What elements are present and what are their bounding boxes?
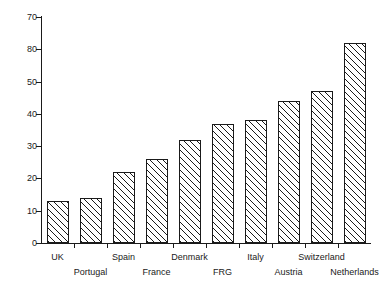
x-axis-category-label: Spain: [112, 253, 135, 262]
x-axis-tick-mark: [206, 244, 207, 248]
y-axis-tick-label: 70: [27, 13, 37, 22]
y-axis-tick-label: 30: [27, 142, 37, 151]
x-axis-category-label: FRG: [213, 268, 232, 277]
x-axis-tick-mark: [74, 244, 75, 248]
x-axis-category-label: Austria: [274, 268, 302, 277]
x-axis-tick-mark: [140, 244, 141, 248]
x-axis-tick-mark: [272, 244, 273, 248]
bar: [47, 201, 69, 243]
x-axis-tick-mark: [305, 244, 306, 248]
y-axis-tick-label: 50: [27, 77, 37, 86]
bar: [179, 140, 201, 243]
x-axis-tick-mark: [173, 244, 174, 248]
bar: [311, 91, 333, 243]
y-axis-tick-label: 80: [27, 45, 37, 54]
x-axis-tick-mark: [239, 244, 240, 248]
bar: [146, 159, 168, 243]
x-axis-category-label: Italy: [247, 253, 264, 262]
x-axis-tick-mark: [107, 244, 108, 248]
x-axis-category-label: Switzerland: [298, 253, 345, 262]
x-axis-category-label: France: [142, 268, 170, 277]
x-axis-category-label: Portugal: [74, 268, 108, 277]
bar: [278, 101, 300, 243]
bar-series: [41, 17, 371, 243]
y-axis-tick-label: 10: [27, 206, 37, 215]
y-axis-tick-label: 40: [27, 109, 37, 118]
x-axis-tick-mark: [338, 244, 339, 248]
x-axis-category-label: UK: [51, 253, 64, 262]
bar: [344, 43, 366, 243]
y-axis-tick-label: 20: [27, 174, 37, 183]
bar: [245, 120, 267, 243]
bar: [113, 172, 135, 243]
x-axis-category-label: Denmark: [171, 253, 208, 262]
plot-area: 010203040508070: [41, 17, 371, 243]
bar: [80, 198, 102, 243]
y-axis-tick-label: 0: [32, 239, 37, 248]
x-axis-category-label: Netherlands: [330, 268, 379, 277]
bar: [212, 124, 234, 243]
